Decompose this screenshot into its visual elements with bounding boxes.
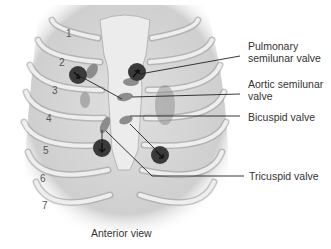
figure-caption: Anterior view (91, 227, 152, 239)
heart-valve-auscultation-diagram: 1 2 3 4 5 6 7 Pulmonary semilunar valve … (0, 0, 331, 249)
label-aortic-semilunar-valve: Aortic semilunar valve (248, 78, 323, 102)
label-pulmonary-semilunar-valve: Pulmonary semilunar valve (248, 40, 321, 64)
rib-number-1: 1 (66, 28, 72, 39)
rib-number-2: 2 (59, 57, 65, 68)
ribcage-illustration (0, 0, 331, 249)
rib-number-3: 3 (52, 85, 58, 96)
label-tricuspid-valve: Tricuspid valve (249, 170, 319, 182)
rib-number-5: 5 (43, 145, 49, 156)
label-bicuspid-valve: Bicuspid valve (248, 111, 315, 123)
rib-number-6: 6 (40, 173, 46, 184)
rib-number-7: 7 (42, 200, 48, 211)
rib-number-4: 4 (46, 113, 52, 124)
